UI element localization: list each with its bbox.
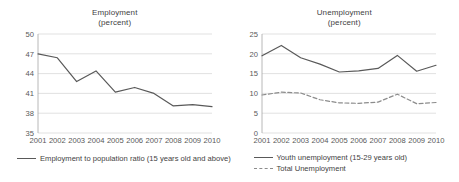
x-tick-label: 2010 [427,136,444,145]
x-tick-label: 2001 [253,136,270,145]
x-tick-label: 2007 [146,136,163,145]
x-tick-label: 2002 [49,136,66,145]
y-tick-label: 38 [26,109,34,118]
legend-item: Total Unemployment [254,163,408,174]
x-tick-label: 2008 [388,136,405,145]
employment-plot: 3538414447502001200220032004200520062007… [0,0,229,150]
y-tick-label: 25 [249,30,257,39]
solid-line-swatch-icon [17,158,36,159]
y-tick-label: 20 [249,50,257,59]
x-tick-label: 2003 [292,136,309,145]
x-tick-label: 2008 [165,136,182,145]
x-tick-label: 2004 [311,136,328,145]
unemployment-plot: 0510152025200120022003200420052006200720… [230,0,459,150]
y-tick-label: 41 [26,89,34,98]
x-tick-label: 2009 [184,136,201,145]
unemployment-legend: Youth unemployment (15-29 years old) Tot… [254,152,408,174]
series-line [262,45,436,72]
y-tick-label: 47 [26,50,34,59]
legend-item-label: Youth unemployment (15-29 years old) [277,152,408,163]
x-tick-label: 2007 [369,136,386,145]
y-tick-label: 50 [26,30,34,39]
x-tick-label: 2009 [408,136,425,145]
x-tick-label: 2005 [107,136,124,145]
x-tick-label: 2005 [330,136,347,145]
dashed-line-swatch-icon [254,168,273,169]
unemployment-panel: Unemployment (percent) 05101520252001200… [230,0,459,182]
x-tick-label: 2006 [350,136,367,145]
y-tick-label: 44 [26,69,34,78]
x-tick-label: 2001 [30,136,47,145]
legend-item: Employment to population ratio (15 years… [17,153,231,164]
series-line [262,92,436,103]
y-tick-label: 15 [249,69,257,78]
legend-item-label: Total Unemployment [277,163,346,174]
legend-item-label: Employment to population ratio (15 years… [40,153,231,164]
x-tick-label: 2006 [126,136,143,145]
y-tick-label: 10 [249,89,257,98]
y-tick-label: 5 [253,109,257,118]
series-line [38,54,212,107]
x-tick-label: 2003 [68,136,85,145]
employment-panel: Employment (percent) 3538414447502001200… [0,0,230,182]
legend-item: Youth unemployment (15-29 years old) [254,152,408,163]
x-tick-label: 2010 [204,136,221,145]
employment-legend: Employment to population ratio (15 years… [17,153,231,164]
two-panel-line-chart-figure: Employment (percent) 3538414447502001200… [0,0,459,182]
x-tick-label: 2002 [272,136,289,145]
solid-line-swatch-icon [254,157,273,158]
x-tick-label: 2004 [88,136,105,145]
